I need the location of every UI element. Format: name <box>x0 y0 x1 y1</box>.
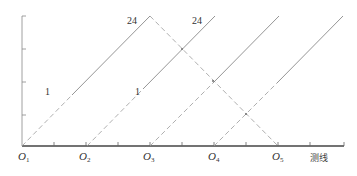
diagonal-line-4 <box>214 16 343 146</box>
survey-line-axis-label: 测线 <box>310 152 328 163</box>
origin-label-o2: O2 <box>79 150 91 164</box>
survey-diagram: 24 24 1 1 O1 O2 O3 O4 O5 测线 <box>0 0 357 176</box>
x-axis-survey-line <box>22 142 344 146</box>
origin-label-o4: O4 <box>208 150 220 164</box>
origin-label-o5: O5 <box>272 150 284 164</box>
label-1-a: 1 <box>45 86 50 97</box>
diagonal-line-2 <box>87 16 215 146</box>
label-24-a: 24 <box>127 15 137 26</box>
diagonal-line-1 <box>22 16 150 146</box>
y-axis <box>22 16 26 146</box>
label-24-b: 24 <box>192 15 202 26</box>
label-1-b: 1 <box>135 86 140 97</box>
origin-label-o3: O3 <box>143 150 155 164</box>
origin-label-o1: O1 <box>18 150 30 164</box>
